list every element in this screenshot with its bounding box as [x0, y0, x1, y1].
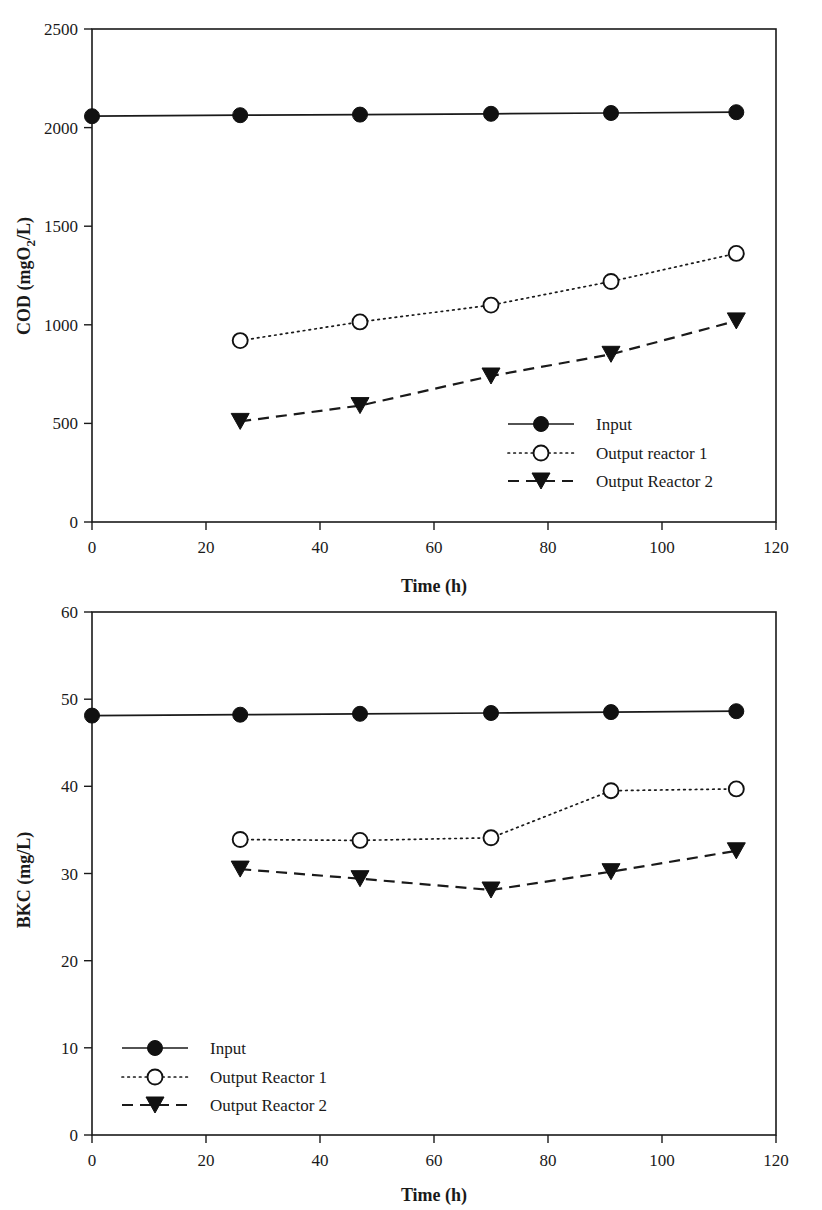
bkc-point-input-3 — [484, 706, 499, 721]
bkc-legend-item-reactor1[interactable]: Output Reactor 1 — [122, 1068, 327, 1087]
cod-yticklabel-2500: 2500 — [44, 20, 78, 39]
bkc-xticklabel-20: 20 — [198, 1151, 215, 1170]
bkc-point-reactor1-0 — [233, 832, 248, 847]
bkc-point-input-5 — [729, 704, 744, 719]
cod-chart-svg: 0 500 1000 1500 2000 2500 0 20 40 60 — [0, 0, 822, 605]
svg-text:COD (mgO2/L): COD (mgO2/L) — [14, 217, 38, 335]
bkc-chart-panel: 0 10 20 30 40 50 60 0 20 40 60 — [0, 600, 822, 1210]
cod-y-axis-title-main: COD (mgO — [14, 247, 35, 336]
cod-xticklabel-20: 20 — [198, 538, 215, 557]
cod-legend-swatch-input-marker — [534, 417, 549, 432]
cod-xticklabel-100: 100 — [649, 538, 675, 557]
cod-series-reactor1-line — [240, 253, 736, 340]
cod-y-axis-title-tail: /L) — [14, 217, 35, 241]
bkc-legend-label-reactor1: Output Reactor 1 — [210, 1068, 327, 1087]
cod-legend-label-input: Input — [596, 415, 632, 434]
bkc-legend: Input Output Reactor 1 Output Reactor 2 — [122, 1039, 327, 1115]
bkc-y-axis: 0 10 20 30 40 50 60 — [61, 603, 92, 1145]
bkc-point-input-4 — [604, 705, 619, 720]
cod-point-reactor2-3 — [602, 346, 620, 362]
bkc-xticklabel-100: 100 — [649, 1151, 675, 1170]
cod-yticklabel-500: 500 — [53, 414, 79, 433]
bkc-series-input — [85, 704, 744, 723]
cod-series-input — [85, 105, 744, 124]
bkc-series-reactor2 — [231, 843, 745, 898]
bkc-point-input-1 — [233, 707, 248, 722]
bkc-x-axis-title: Time (h) — [401, 1185, 467, 1206]
bkc-xticklabel-60: 60 — [426, 1151, 443, 1170]
cod-xticklabel-60: 60 — [426, 538, 443, 557]
cod-yticklabel-0: 0 — [70, 513, 79, 532]
cod-legend-label-reactor1: Output reactor 1 — [596, 444, 707, 463]
cod-series-input-line — [92, 112, 736, 116]
bkc-legend-label-input: Input — [210, 1039, 246, 1058]
cod-chart-panel: 0 500 1000 1500 2000 2500 0 20 40 60 — [0, 0, 822, 605]
cod-x-axis-title: Time (h) — [401, 576, 467, 597]
cod-point-reactor2-2 — [482, 368, 500, 384]
figure-page: 0 500 1000 1500 2000 2500 0 20 40 60 — [0, 0, 822, 1210]
cod-y-axis: 0 500 1000 1500 2000 2500 — [44, 20, 92, 532]
bkc-legend-item-reactor2[interactable]: Output Reactor 2 — [122, 1096, 327, 1115]
bkc-legend-swatch-reactor1-marker — [148, 1070, 163, 1085]
cod-point-reactor1-4 — [729, 246, 744, 261]
bkc-yticklabel-30: 30 — [61, 865, 78, 884]
bkc-point-input-2 — [353, 706, 368, 721]
cod-point-input-2 — [353, 107, 368, 122]
bkc-legend-label-reactor2: Output Reactor 2 — [210, 1096, 327, 1115]
bkc-point-reactor1-3 — [604, 783, 619, 798]
cod-legend-item-reactor1[interactable]: Output reactor 1 — [508, 444, 707, 463]
cod-yticklabel-1500: 1500 — [44, 217, 78, 236]
bkc-chart-svg: 0 10 20 30 40 50 60 0 20 40 60 — [0, 600, 822, 1210]
cod-legend-item-reactor2[interactable]: Output Reactor 2 — [508, 472, 713, 491]
cod-xticklabel-0: 0 — [88, 538, 97, 557]
cod-legend-item-input[interactable]: Input — [508, 415, 632, 434]
cod-series-reactor1 — [233, 246, 744, 348]
cod-point-reactor1-3 — [604, 274, 619, 289]
cod-yticklabel-1000: 1000 — [44, 316, 78, 335]
bkc-x-axis: 0 20 40 60 80 100 120 — [88, 1135, 789, 1170]
cod-legend-label-reactor2: Output Reactor 2 — [596, 472, 713, 491]
bkc-yticklabel-0: 0 — [70, 1126, 79, 1145]
bkc-point-reactor1-4 — [729, 781, 744, 796]
bkc-yticklabel-40: 40 — [61, 777, 78, 796]
cod-xticklabel-80: 80 — [540, 538, 557, 557]
bkc-y-axis-title-text: BKC (mg/L) — [14, 832, 35, 929]
bkc-series-reactor1 — [233, 781, 744, 848]
cod-xticklabel-120: 120 — [763, 538, 789, 557]
bkc-xticklabel-40: 40 — [312, 1151, 329, 1170]
cod-point-input-1 — [233, 108, 248, 123]
bkc-xticklabel-80: 80 — [540, 1151, 557, 1170]
cod-legend: Input Output reactor 1 Output Reactor 2 — [508, 415, 713, 491]
cod-point-input-5 — [729, 105, 744, 120]
cod-x-axis: 0 20 40 60 80 100 120 — [88, 522, 789, 557]
bkc-y-axis-title: BKC (mg/L) — [14, 832, 35, 929]
bkc-point-reactor1-2 — [484, 830, 499, 845]
bkc-point-input-0 — [85, 708, 100, 723]
bkc-point-reactor1-1 — [353, 833, 368, 848]
cod-point-input-4 — [604, 106, 619, 121]
cod-point-input-3 — [484, 106, 499, 121]
cod-xticklabel-40: 40 — [312, 538, 329, 557]
cod-y-axis-title: COD (mgO2/L) — [14, 217, 38, 335]
cod-yticklabel-2000: 2000 — [44, 119, 78, 138]
bkc-yticklabel-60: 60 — [61, 603, 78, 622]
cod-point-reactor1-2 — [484, 298, 499, 313]
bkc-xticklabel-120: 120 — [763, 1151, 789, 1170]
cod-point-reactor1-1 — [353, 314, 368, 329]
bkc-legend-item-input[interactable]: Input — [122, 1039, 246, 1058]
bkc-yticklabel-50: 50 — [61, 690, 78, 709]
bkc-plot-frame — [92, 612, 776, 1135]
bkc-xticklabel-0: 0 — [88, 1151, 97, 1170]
bkc-yticklabel-20: 20 — [61, 952, 78, 971]
cod-point-reactor1-0 — [233, 333, 248, 348]
cod-point-reactor2-4 — [727, 313, 745, 329]
bkc-legend-swatch-input-marker — [148, 1041, 163, 1056]
bkc-yticklabel-10: 10 — [61, 1039, 78, 1058]
cod-legend-swatch-reactor1-marker — [534, 446, 549, 461]
cod-point-input-0 — [85, 109, 100, 124]
bkc-series-input-line — [92, 711, 736, 715]
